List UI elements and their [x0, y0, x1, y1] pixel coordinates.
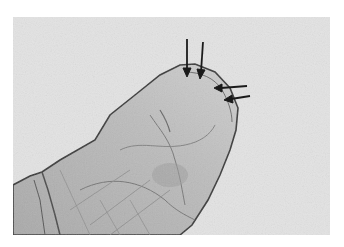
nematode-head-image [13, 17, 330, 235]
micrograph [13, 17, 330, 235]
